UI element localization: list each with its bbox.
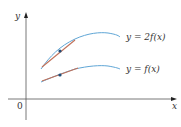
curve-2f-label: y = 2f(x) (125, 32, 166, 42)
tangent-point-2f (58, 49, 61, 52)
curve-f-path (41, 66, 120, 82)
curve-f (41, 66, 120, 82)
curve-2f-path (41, 33, 120, 69)
tangent-line-2f (42, 40, 75, 67)
curve-f-label: y = f(x) (125, 64, 160, 74)
y-axis-label: y (14, 11, 21, 21)
y-axis-arrow-icon (24, 12, 28, 18)
x-axis (8, 97, 177, 101)
y-axis (24, 12, 28, 120)
graph-figure: y x 0 y = 2f(x) y = f(x) (0, 0, 181, 127)
tangent-point-f (58, 73, 61, 76)
curve-2f (41, 33, 120, 69)
x-axis-label: x (172, 101, 177, 111)
origin-label: 0 (17, 101, 23, 111)
